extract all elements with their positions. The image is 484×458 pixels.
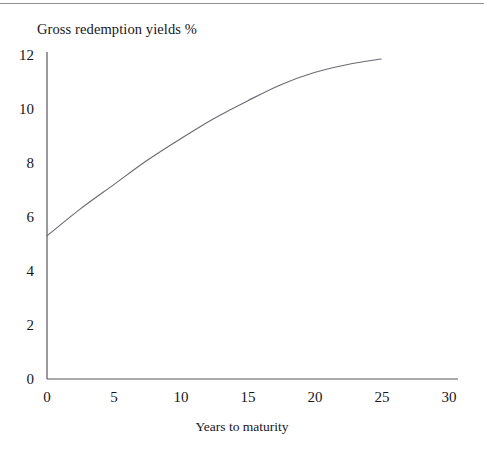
y-tick-label-2: 2 [4, 317, 34, 334]
x-axis-title: Years to maturity [0, 419, 484, 435]
x-tick-label-30: 30 [434, 389, 464, 406]
yield-curve-line [47, 59, 381, 236]
y-tick-label-6: 6 [4, 209, 34, 226]
y-tick-label-10: 10 [4, 101, 34, 118]
y-tick-label-12: 12 [4, 47, 34, 64]
x-tick-label-15: 15 [233, 389, 263, 406]
y-tick-label-8: 8 [4, 155, 34, 172]
x-tick-label-5: 5 [99, 389, 129, 406]
y-tick-label-4: 4 [4, 263, 34, 280]
x-tick-label-10: 10 [166, 389, 196, 406]
x-tick-label-20: 20 [300, 389, 330, 406]
x-tick-label-25: 25 [367, 389, 397, 406]
chart-page: Gross redemption yields % 12 10 8 6 4 2 … [0, 0, 484, 458]
y-tick-label-0: 0 [4, 371, 34, 388]
x-tick-label-0: 0 [32, 389, 62, 406]
